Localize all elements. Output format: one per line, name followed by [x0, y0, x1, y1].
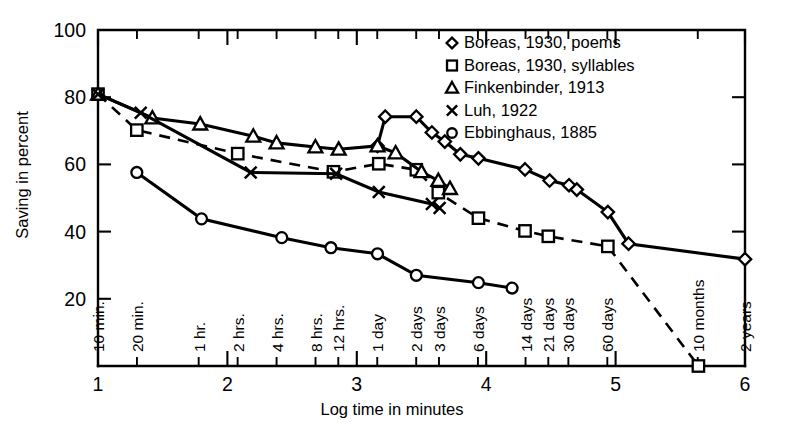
x-time-label: 20 min.	[129, 301, 146, 352]
data-point-marker-circle	[507, 283, 518, 294]
legend-label: Ebbinghaus, 1885	[464, 123, 597, 141]
x-time-label: 2 years	[737, 301, 754, 352]
y-tick-label: 60	[64, 153, 86, 175]
x-time-label: 21 days	[540, 297, 557, 352]
legend-item-circle: Ebbinghaus, 1885	[447, 123, 597, 141]
data-point-marker-circle	[411, 270, 422, 281]
data-point-marker-circle	[325, 242, 336, 253]
x-time-label: 12 hrs.	[330, 305, 347, 352]
x-axis-number: 5	[610, 373, 621, 395]
data-point-marker-square	[543, 231, 554, 242]
x-axis-number: 4	[481, 373, 492, 395]
x-axis-number: 1	[93, 373, 104, 395]
data-point-marker-square	[693, 360, 704, 371]
data-point-marker-square	[519, 225, 530, 236]
x-axis-number: 2	[222, 373, 233, 395]
x-time-label: 8 hrs.	[308, 313, 325, 352]
y-axis-title: Saving in percent	[13, 111, 31, 239]
x-time-label: 10 months	[690, 279, 707, 352]
x-time-label: 30 days	[560, 297, 577, 352]
data-point-marker-circle	[473, 277, 484, 288]
data-point-marker-circle	[131, 167, 142, 178]
data-point-marker-circle	[276, 232, 287, 243]
x-time-label: 2 days	[408, 306, 425, 352]
data-point-marker-square	[433, 187, 444, 198]
x-time-label: 10 min.	[90, 301, 107, 352]
data-point-marker-circle	[196, 213, 207, 224]
data-point-marker-square	[473, 212, 484, 223]
x-time-label: 2 hrs.	[230, 313, 247, 352]
data-point-marker-square	[602, 241, 613, 252]
legend-item-triangle: Finkenbinder, 1913	[446, 78, 604, 96]
x-time-label: 6 days	[470, 306, 487, 352]
legend-label: Luh, 1922	[464, 101, 537, 119]
y-tick-label: 100	[53, 19, 86, 41]
legend-label: Boreas, 1930, syllables	[464, 56, 635, 74]
x-time-label: 4 hrs.	[269, 313, 286, 352]
x-axis-number: 6	[740, 373, 751, 395]
legend-item-diamond: Boreas, 1930, poems	[447, 33, 621, 51]
data-point-marker-square	[447, 61, 457, 71]
y-tick-label: 20	[64, 288, 86, 310]
chart-figure: 10 min.20 min.1 hr.2 hrs.4 hrs.8 hrs.12 …	[0, 0, 785, 431]
legend-item-square: Boreas, 1930, syllables	[447, 56, 635, 74]
x-time-label: 60 days	[599, 297, 616, 352]
data-point-marker-square	[373, 158, 384, 169]
x-time-label: 14 days	[518, 297, 535, 352]
x-axis-number: 3	[351, 373, 362, 395]
data-point-marker-circle	[372, 248, 383, 259]
legend-label: Finkenbinder, 1913	[464, 78, 604, 96]
legend-label: Boreas, 1930, poems	[464, 33, 621, 51]
x-time-label: 1 day	[369, 314, 386, 352]
y-tick-label: 80	[64, 86, 86, 108]
y-tick-label: 40	[64, 221, 86, 243]
forgetting-curve-chart: 10 min.20 min.1 hr.2 hrs.4 hrs.8 hrs.12 …	[0, 0, 785, 431]
data-point-marker-square	[131, 124, 142, 135]
x-axis-title: Log time in minutes	[320, 400, 463, 418]
data-point-marker-square	[232, 148, 243, 159]
data-point-marker-circle	[447, 128, 457, 138]
x-time-label: 3 days	[431, 306, 448, 352]
x-time-label: 1 hr.	[191, 322, 208, 352]
